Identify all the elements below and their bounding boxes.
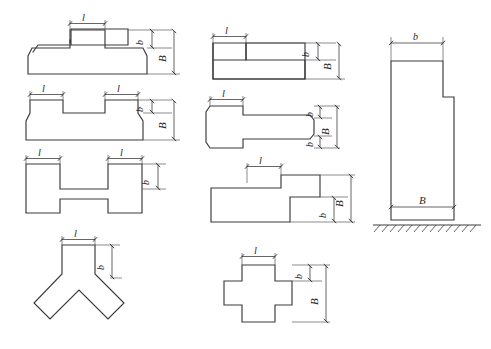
label-l: l xyxy=(222,88,225,99)
dimension-bB-fig1: b B xyxy=(128,30,180,74)
label-b: b xyxy=(317,213,328,218)
figure-z-shape: l b B xyxy=(211,155,355,222)
label-B: B xyxy=(308,298,320,305)
label-B: B xyxy=(156,55,168,62)
dimension-B-elevation: B xyxy=(391,194,454,207)
label-l: l xyxy=(74,228,77,239)
label-l: l xyxy=(254,245,257,256)
label-B: B xyxy=(156,122,168,129)
label-b: b xyxy=(304,112,315,117)
drawing-sheet: l b B l l xyxy=(0,0,491,349)
figure-pier-elevation: b B xyxy=(373,31,481,232)
label-b: b xyxy=(300,52,311,57)
label-B: B xyxy=(333,200,345,207)
dimension-l-fig5: l xyxy=(213,25,246,43)
label-b: b xyxy=(140,180,151,185)
label-b: b xyxy=(413,31,418,42)
t-shape-body xyxy=(28,30,147,74)
label-B: B xyxy=(321,63,333,70)
u-shape-body xyxy=(26,100,143,140)
dimension-l-fig1: l xyxy=(70,12,105,30)
ground-line xyxy=(373,225,481,232)
figure-t-shape: l b B xyxy=(28,12,180,74)
label-l: l xyxy=(117,83,120,94)
dimension-l-fig7: l xyxy=(247,155,281,183)
dimension-l1-fig2: l xyxy=(30,83,63,100)
dimension-bBb-fig6: b b B xyxy=(304,106,340,148)
label-l: l xyxy=(120,147,123,158)
l-shape-body xyxy=(213,43,305,79)
l-shape-body-correct xyxy=(213,43,305,79)
figure-l-shape: l b B xyxy=(213,25,345,79)
technical-drawing-canvas: l b B l l xyxy=(0,0,491,349)
label-l: l xyxy=(42,83,45,94)
dimension-l2-fig3: l xyxy=(108,147,142,164)
dimension-bB-fig7: b B xyxy=(290,175,355,222)
dimension-l-fig8: l xyxy=(242,245,275,265)
t-bar-body xyxy=(206,106,314,148)
label-b: b xyxy=(95,265,106,270)
dimension-b-elevation: b xyxy=(391,31,443,61)
figure-h-shape: l l b xyxy=(26,147,166,213)
dimension-bB-fig2: b B xyxy=(134,100,180,140)
figure-cross-shape: l b B xyxy=(224,245,330,322)
dimension-b-fig4: b xyxy=(95,245,122,278)
label-l: l xyxy=(38,147,41,158)
dimension-l1-fig3: l xyxy=(26,147,60,164)
figure-y-shape: l b xyxy=(34,228,124,319)
h-shape-body xyxy=(26,164,142,213)
cross-shape-body xyxy=(224,265,292,322)
y-shape-body xyxy=(34,245,124,319)
figure-t-bar-shape: l b b B xyxy=(206,88,340,148)
label-l: l xyxy=(82,12,85,23)
dimension-bB-fig8: b B xyxy=(292,265,330,322)
dimension-l-fig6: l xyxy=(210,88,243,106)
label-b: b xyxy=(293,274,304,279)
label-b: b xyxy=(134,40,145,45)
figure-u-shape: l l b B xyxy=(26,83,180,140)
dimension-bB-fig5: b B xyxy=(246,43,345,79)
label-l: l xyxy=(225,25,228,36)
label-B: B xyxy=(319,128,331,135)
dimension-b-fig3: b xyxy=(140,164,166,189)
label-b: b xyxy=(304,142,315,147)
label-B: B xyxy=(419,194,426,206)
label-l: l xyxy=(259,155,262,166)
dimension-l2-fig2: l xyxy=(105,83,138,100)
ground-hatching xyxy=(374,225,476,232)
dimension-l-fig4: l xyxy=(62,228,95,245)
z-shape-body xyxy=(211,175,320,222)
label-b: b xyxy=(134,107,145,112)
